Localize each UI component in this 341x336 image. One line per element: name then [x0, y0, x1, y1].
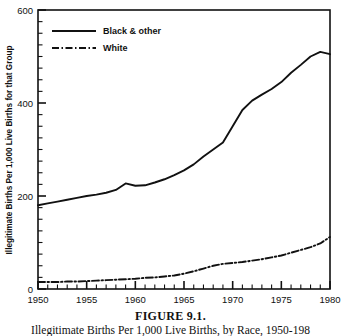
x-tick-label: 1950	[27, 294, 48, 305]
x-axis-tick-labels: 1950195519601965197019751980	[27, 294, 340, 305]
y-tick-label: 0	[28, 284, 33, 295]
x-tick-label: 1960	[125, 294, 146, 305]
y-tick-label: 200	[17, 191, 33, 202]
y-tick-label: 600	[17, 5, 33, 16]
plot-area	[38, 10, 330, 289]
figure-caption-title: FIGURE 9.1.	[0, 309, 341, 324]
x-tick-label: 1980	[319, 294, 340, 305]
x-tick-label: 1955	[76, 294, 97, 305]
x-tick-label: 1970	[222, 294, 243, 305]
x-tick-label: 1975	[271, 294, 292, 305]
y-axis-title: Illegitimate Births Per 1,000 Live Birth…	[5, 46, 14, 255]
legend-label-1: White	[103, 43, 128, 53]
figure-caption-subtitle: Illegitimate Births Per 1,000 Live Birth…	[0, 324, 341, 336]
x-tick-label: 1965	[173, 294, 194, 305]
plot-frame	[38, 10, 330, 289]
y-tick-label: 400	[17, 98, 33, 109]
legend-label-0: Black & other	[103, 26, 162, 36]
y-axis-tick-labels: 0200400600	[17, 5, 33, 295]
